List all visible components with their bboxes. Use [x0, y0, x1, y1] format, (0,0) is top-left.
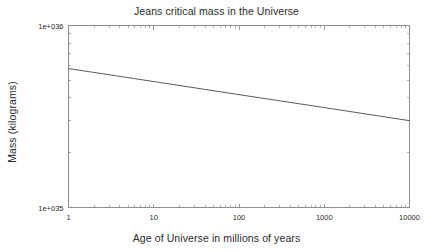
x-tick-label: 1000	[316, 213, 333, 222]
tick-label-group: 1101001000100001e+0351e+036	[38, 22, 420, 222]
x-tick-label: 100	[233, 213, 246, 222]
minor-tick-group	[69, 26, 410, 208]
x-tick-label: 1	[66, 213, 70, 222]
major-tick-group	[69, 26, 410, 208]
data-series-line	[69, 69, 410, 121]
plot-area: 1101001000100001e+0351e+036	[0, 0, 433, 252]
y-tick-label: 1e+035	[38, 204, 63, 213]
chart-figure: Jeans critical mass in the Universe Mass…	[0, 0, 433, 252]
y-tick-label: 1e+036	[38, 22, 63, 31]
x-tick-label: 10000	[399, 213, 420, 222]
plot-frame	[69, 26, 410, 208]
x-tick-label: 10	[150, 213, 158, 222]
